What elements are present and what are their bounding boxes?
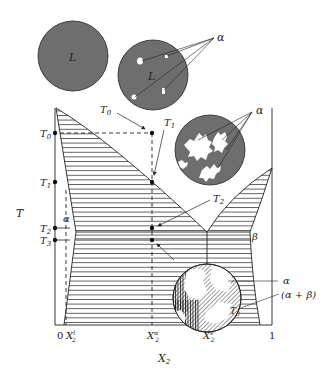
alpha-annotation-2: α — [256, 104, 264, 117]
x-axis-labels: 0 Xl2 Xα2 Xe2 1 X2 — [57, 329, 275, 366]
x-tick-alpha-comp: Xα2 — [146, 329, 159, 343]
microstructure-alpha-dendrites: α — [175, 104, 264, 185]
alpha-annotation-1: α — [217, 31, 225, 44]
alpha-annotation-3: α — [283, 275, 290, 286]
x-tick-0: 0 — [57, 330, 63, 341]
t3-axis-label: T3 — [40, 235, 52, 248]
phase-diagram: L L α α — [0, 0, 334, 379]
alpha-beta-annotation: (α + β) — [281, 289, 316, 300]
t0-point-label: T0 — [100, 104, 112, 117]
t1-point-label: T1 — [164, 117, 175, 130]
liquid-label-2: L — [147, 70, 155, 83]
t0-axis-label: T0 — [40, 128, 52, 141]
alpha-region-label: α — [63, 213, 70, 224]
t2-point-label: T2 — [213, 193, 225, 206]
phase-regions — [50, 100, 280, 327]
x-tick-1: 1 — [269, 330, 275, 341]
x-tick-liquid-comp: Xl2 — [65, 329, 76, 343]
microstructure-liquid: L — [38, 21, 108, 91]
t1-axis-label: T1 — [40, 177, 51, 190]
microstructure-liquid-alpha-nuclei: L α — [118, 31, 225, 110]
y-axis-title: T — [16, 207, 25, 220]
liquid-label: L — [68, 51, 76, 64]
x-tick-eutectic-comp: Xe2 — [202, 329, 215, 343]
beta-region-label: β — [251, 231, 258, 242]
x-axis-title: X2 — [157, 352, 171, 366]
